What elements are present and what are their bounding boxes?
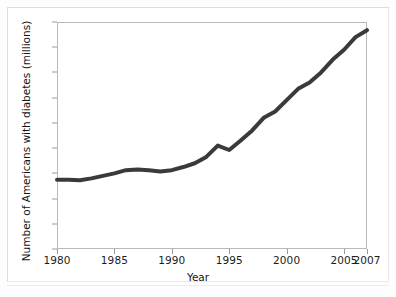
x-tick-mark-1990 [172, 249, 173, 254]
x-tick-label-1980: 1980 [43, 254, 70, 266]
chart-page: 024681012141618 Number of Americans with… [0, 0, 396, 297]
plot-canvas [57, 22, 367, 249]
x-tick-label-1995: 1995 [216, 254, 243, 266]
x-tick-label-1985: 1985 [101, 254, 128, 266]
x-axis-title: Year [0, 271, 396, 283]
data-series-line [57, 30, 367, 180]
x-tick-mark-2007 [367, 249, 368, 254]
x-tick-mark-1985 [114, 249, 115, 254]
x-tick-mark-2005 [344, 249, 345, 254]
x-tick-mark-1980 [57, 249, 58, 254]
x-tick-label-2007: 2007 [353, 254, 380, 266]
x-tick-label-1990: 1990 [158, 254, 185, 266]
x-tick-mark-1995 [229, 249, 230, 254]
x-tick-mark-2000 [287, 249, 288, 254]
y-axis-title: Number of Americans with diabetes (milli… [20, 16, 32, 266]
line-chart-figure: 024681012141618 Number of Americans with… [0, 0, 396, 297]
x-tick-label-2000: 2000 [273, 254, 300, 266]
